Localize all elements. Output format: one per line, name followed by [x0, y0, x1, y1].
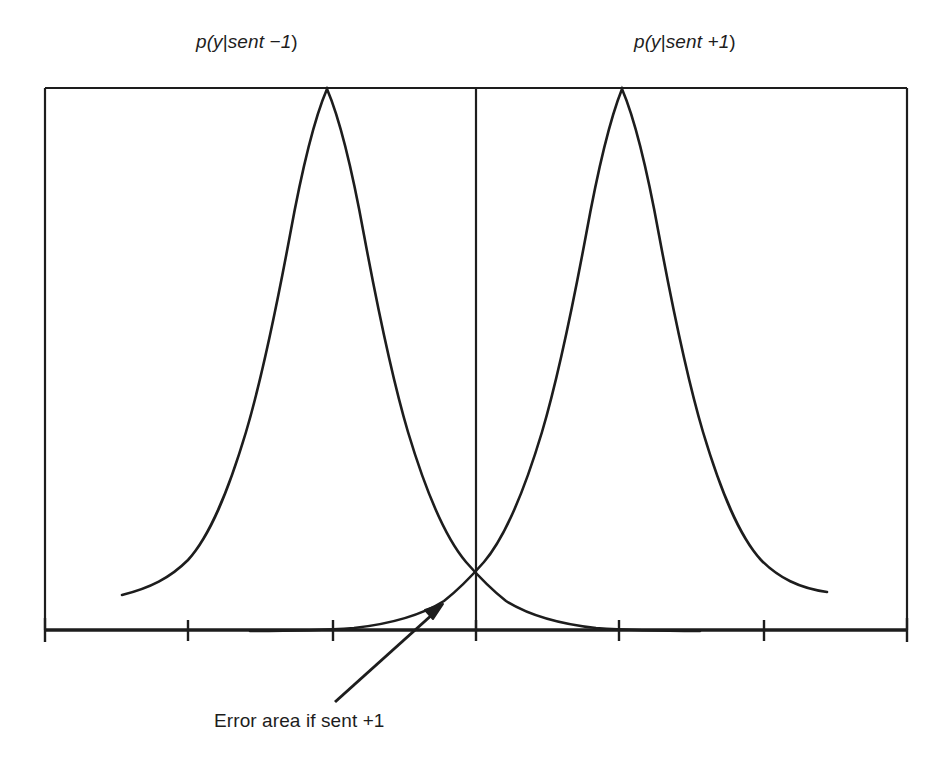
right-density-label: p(y|sent +1): [634, 31, 736, 53]
left-density-label: p(y|sent −1): [196, 31, 298, 53]
curve-sent-minus-one: [122, 89, 700, 631]
distribution-plot: [0, 0, 945, 779]
right-density-variable: y: [651, 31, 661, 52]
error-area-arrow: [335, 604, 443, 702]
right-density-condition: sent +1: [666, 31, 730, 52]
left-density-prefix: p(: [196, 31, 213, 52]
right-density-prefix: p(: [634, 31, 651, 52]
figure-root: p(y|sent −1) p(y|sent +1) Error area if …: [0, 0, 945, 779]
right-density-suffix: ): [729, 31, 735, 52]
left-density-suffix: ): [291, 31, 297, 52]
left-density-variable: y: [213, 31, 223, 52]
curve-sent-plus-one: [250, 89, 827, 631]
error-area-caption: Error area if sent +1: [214, 710, 385, 732]
left-density-condition: sent −1: [228, 31, 292, 52]
